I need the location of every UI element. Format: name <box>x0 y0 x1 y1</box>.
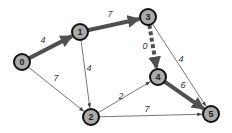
node-label: 0 <box>19 57 24 67</box>
node-4: 4 <box>150 69 166 85</box>
node-label: 4 <box>155 72 160 82</box>
node-2: 2 <box>83 109 99 125</box>
edge-weight-label: 4 <box>40 35 45 45</box>
edge-weight-label: 6 <box>180 80 185 90</box>
node-label: 5 <box>208 109 213 119</box>
edge-1-2 <box>81 40 90 108</box>
edge-1-3 <box>88 19 139 30</box>
graph-diagram: 477427046 012345 <box>0 0 232 133</box>
edge-2-4 <box>98 82 150 113</box>
edge-weight-label: 7 <box>107 9 113 19</box>
edges-layer <box>28 19 206 117</box>
node-3: 3 <box>140 9 156 25</box>
edge-3-4 <box>149 25 156 68</box>
node-1: 1 <box>72 24 88 40</box>
edge-weight-label: 7 <box>53 73 59 83</box>
edge-weight-label: 0 <box>142 41 147 51</box>
edge-weight-label: 4 <box>178 54 183 64</box>
edge-weight-label: 7 <box>144 104 150 114</box>
node-label: 1 <box>77 27 82 37</box>
edge-weight-label: 2 <box>117 91 123 101</box>
edge-0-1 <box>29 36 72 58</box>
nodes-layer: 012345 <box>14 9 219 125</box>
edge-2-5 <box>99 114 202 117</box>
node-5: 5 <box>203 106 219 122</box>
edge-weight-label: 4 <box>86 63 91 73</box>
node-label: 2 <box>88 112 93 122</box>
node-0: 0 <box>14 54 30 70</box>
node-label: 3 <box>145 12 150 22</box>
